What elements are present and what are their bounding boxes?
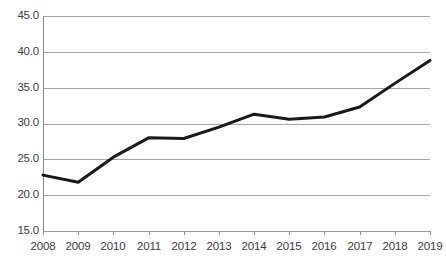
y-tick-label: 20.0 xyxy=(3,188,39,200)
x-tick xyxy=(360,231,361,235)
gridline-15-baseline xyxy=(43,231,430,232)
x-tick xyxy=(113,231,114,235)
x-tick xyxy=(78,231,79,235)
x-tick xyxy=(219,231,220,235)
y-tick-label: 35.0 xyxy=(3,81,39,93)
gridline-45 xyxy=(43,16,430,17)
y-tick-label: 25.0 xyxy=(3,152,39,164)
y-axis-line xyxy=(43,16,44,231)
gridline-20 xyxy=(43,195,430,196)
gridline-30 xyxy=(43,124,430,125)
x-tick xyxy=(149,231,150,235)
gridline-35 xyxy=(43,88,430,89)
line-chart: 45.0 40.0 35.0 30.0 25.0 20.0 15.0 2008 … xyxy=(0,0,446,271)
x-tick-label: 2019 xyxy=(408,240,446,252)
x-tick xyxy=(395,231,396,235)
gridline-40 xyxy=(43,52,430,53)
y-tick-label: 40.0 xyxy=(3,45,39,57)
x-tick xyxy=(184,231,185,235)
x-tick xyxy=(430,231,431,235)
y-tick-label: 30.0 xyxy=(3,116,39,128)
y-tick-label: 45.0 xyxy=(3,9,39,21)
x-tick xyxy=(254,231,255,235)
gridline-25 xyxy=(43,159,430,160)
plot-area xyxy=(43,16,430,231)
y-tick-label: 15.0 xyxy=(3,224,39,236)
x-tick xyxy=(43,231,44,235)
x-tick xyxy=(324,231,325,235)
y-axis-labels: 45.0 40.0 35.0 30.0 25.0 20.0 15.0 xyxy=(0,0,39,271)
x-tick xyxy=(289,231,290,235)
